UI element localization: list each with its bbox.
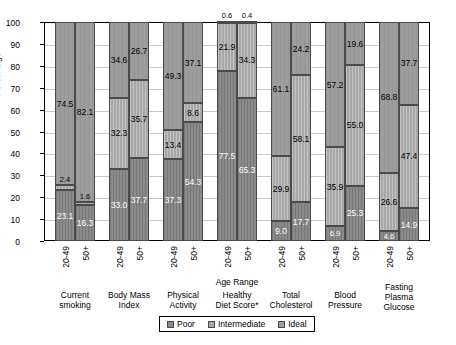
segment-value-label: 33.0 (110, 200, 128, 209)
segment-value-label: 23.1 (56, 211, 74, 220)
segment-value-label: 65.3 (238, 165, 256, 174)
bar-segment-inter[interactable]: 55.0 (345, 65, 365, 185)
x-axis-tick-label-50plus: 50+ (297, 246, 307, 260)
bar-segment-ideal[interactable]: 26.7 (129, 22, 149, 80)
segment-texture (56, 186, 74, 189)
x-axis-tick-label-20-49: 20-49 (385, 246, 395, 268)
bar-segment-inter[interactable]: 21.9 (217, 23, 237, 71)
stacked-bar[interactable]: 17.758.124.2 (291, 22, 311, 241)
bar-segment-ideal[interactable]: 34.6 (109, 22, 129, 98)
y-axis-tick-label: 90 (0, 39, 20, 49)
segment-value-label: 37.1 (184, 58, 202, 67)
bar-segment-ideal[interactable]: 82.1 (75, 22, 95, 202)
bar-segment-poor[interactable]: 23.1 (55, 190, 75, 241)
bar-segment-inter[interactable]: 35.9 (325, 147, 345, 226)
bar-segment-ideal[interactable]: 49.3 (163, 22, 183, 130)
segment-value-label: 9.0 (272, 227, 290, 236)
segment-value-label: 35.7 (130, 115, 148, 124)
x-axis-group-label: Fasting Plasma Glucose (372, 282, 426, 312)
bar-segment-poor[interactable]: 6.9 (325, 226, 345, 241)
bar-segment-poor[interactable]: 9.0 (271, 221, 291, 241)
bar-segment-ideal[interactable]: 37.1 (183, 22, 203, 103)
stacked-bar[interactable]: 54.38.637.1 (183, 22, 203, 241)
stacked-bar[interactable]: 37.735.726.7 (129, 22, 149, 241)
y-axis-tick-label: 30 (0, 171, 20, 181)
y-axis-tick-mark (40, 241, 44, 242)
x-axis-group-label: Current smoking (48, 290, 102, 310)
stacked-bar[interactable]: 6.935.957.2 (325, 22, 345, 241)
bar-segment-inter[interactable]: 1.6 (75, 202, 95, 206)
segment-value-label: 58.1 (292, 134, 310, 143)
bar-group: 9.029.961.117.758.124.2 (264, 22, 318, 241)
bar-group: 4.626.668.814.947.437.7 (372, 22, 426, 241)
segment-value-label: 74.5 (56, 99, 74, 108)
legend: Poor Intermediate Ideal (159, 316, 315, 332)
stacked-bar[interactable]: 23.12.474.5 (55, 22, 75, 241)
stacked-bar[interactable]: 14.947.437.7 (399, 22, 419, 241)
x-axis-tick-label-50plus: 50+ (405, 246, 415, 260)
segment-value-label: 8.6 (184, 108, 202, 117)
bar-segment-ideal[interactable]: 57.2 (325, 22, 345, 147)
stacked-bar[interactable]: 65.334.30.4 (237, 22, 257, 241)
y-axis-tick-label: 20 (0, 193, 20, 203)
bar-segment-ideal[interactable]: 37.7 (399, 22, 419, 105)
bar-group: 37.313.449.354.38.637.1 (156, 22, 210, 241)
segment-value-label: 55.0 (346, 121, 364, 130)
bar-segment-inter[interactable]: 29.9 (271, 156, 291, 221)
bar-segment-inter[interactable]: 32.3 (109, 98, 129, 169)
bar-segment-ideal[interactable]: 74.5 (55, 22, 75, 185)
bar-segment-inter[interactable]: 13.4 (163, 130, 183, 159)
bar-segment-poor[interactable]: 54.3 (183, 122, 203, 241)
bars-layer: 23.12.474.516.31.682.133.032.334.637.735… (44, 22, 430, 241)
bar-segment-ideal[interactable]: 24.2 (291, 22, 311, 75)
stacked-bar[interactable]: 16.31.682.1 (75, 22, 95, 241)
bar-segment-inter[interactable]: 2.4 (55, 185, 75, 190)
bar-segment-ideal[interactable]: 68.8 (379, 22, 399, 173)
segment-value-label: 24.2 (292, 44, 310, 53)
segment-value-label: 13.4 (164, 140, 182, 149)
segment-value-label: 34.3 (238, 56, 256, 65)
segment-value-label: 4.6 (380, 231, 398, 240)
x-axis-group-label: Total Cholesterol (264, 290, 318, 310)
bar-segment-poor[interactable]: 4.6 (379, 231, 399, 241)
bar-segment-ideal[interactable]: 61.1 (271, 22, 291, 156)
bar-segment-poor[interactable]: 37.7 (129, 158, 149, 241)
segment-value-label: 32.3 (110, 129, 128, 138)
stacked-bar[interactable]: 9.029.961.1 (271, 22, 291, 241)
x-axis-tick-label-20-49: 20-49 (115, 246, 125, 268)
segment-value-label: 37.3 (164, 196, 182, 205)
stacked-bar[interactable]: 77.521.90.6 (217, 22, 237, 241)
x-axis-tick-label-50plus: 50+ (351, 246, 361, 260)
bar-segment-poor[interactable]: 16.3 (75, 205, 95, 241)
stacked-bar[interactable]: 25.355.019.6 (345, 22, 365, 241)
bar-segment-poor[interactable]: 14.9 (399, 208, 419, 241)
bar-group: 6.935.957.225.355.019.6 (318, 22, 372, 241)
bar-segment-ideal[interactable]: 0.6 (217, 21, 237, 23)
stacked-bar[interactable]: 33.032.334.6 (109, 22, 129, 241)
bar-segment-inter[interactable]: 35.7 (129, 80, 149, 158)
segment-value-label: 47.4 (400, 152, 418, 161)
stacked-bar[interactable]: 4.626.668.8 (379, 22, 399, 241)
y-axis-tick-label: 50 (0, 127, 20, 137)
bar-segment-poor[interactable]: 17.7 (291, 202, 311, 241)
bar-segment-poor[interactable]: 25.3 (345, 186, 365, 241)
bar-segment-ideal[interactable]: 19.6 (345, 22, 365, 65)
bar-segment-poor[interactable]: 77.5 (217, 71, 237, 241)
legend-swatch-icon (208, 321, 215, 328)
bar-segment-inter[interactable]: 34.3 (237, 23, 257, 98)
segment-value-label: 37.7 (130, 195, 148, 204)
bar-segment-inter[interactable]: 58.1 (291, 75, 311, 202)
segment-value-label: 29.9 (272, 184, 290, 193)
segment-value-label: 1.6 (76, 192, 94, 201)
segment-value-label: 0.4 (238, 11, 256, 20)
bar-segment-poor[interactable]: 33.0 (109, 169, 129, 241)
bar-segment-poor[interactable]: 37.3 (163, 159, 183, 241)
stacked-bar[interactable]: 37.313.449.3 (163, 22, 183, 241)
bar-segment-poor[interactable]: 65.3 (237, 98, 257, 241)
bar-segment-inter[interactable]: 47.4 (399, 105, 419, 209)
bar-segment-ideal[interactable]: 0.4 (237, 21, 257, 23)
bar-segment-inter[interactable]: 26.6 (379, 173, 399, 231)
legend-item-poor: Poor (167, 319, 195, 329)
segment-texture (76, 203, 94, 205)
bar-segment-inter[interactable]: 8.6 (183, 103, 203, 122)
